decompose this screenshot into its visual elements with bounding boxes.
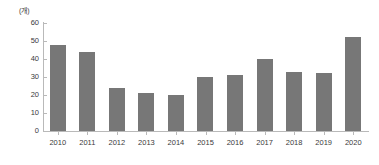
bar-2020[interactable] bbox=[345, 37, 361, 131]
plot-area bbox=[43, 23, 368, 131]
bar-slot bbox=[132, 23, 162, 131]
x-axis-tick bbox=[265, 131, 266, 135]
bar-slot bbox=[43, 23, 73, 131]
bar-slot bbox=[220, 23, 250, 131]
x-axis-tick bbox=[206, 131, 207, 135]
bar-slot bbox=[102, 23, 132, 131]
bar-2016[interactable] bbox=[227, 75, 243, 131]
bar-slot bbox=[309, 23, 339, 131]
bar-2018[interactable] bbox=[286, 72, 302, 131]
bar-2010[interactable] bbox=[50, 45, 66, 131]
x-axis-tick bbox=[294, 131, 295, 135]
x-axis-tick bbox=[324, 131, 325, 135]
x-axis-tick bbox=[87, 131, 88, 135]
x-axis-tick bbox=[58, 131, 59, 135]
x-axis-label-2020: 2020 bbox=[333, 139, 373, 147]
y-axis-tick-label: 0 bbox=[5, 127, 39, 135]
x-axis-tick bbox=[146, 131, 147, 135]
x-axis-tick bbox=[353, 131, 354, 135]
bar-slot bbox=[338, 23, 368, 131]
y-axis-tick bbox=[43, 131, 47, 132]
bar-2019[interactable] bbox=[316, 73, 332, 131]
y-axis-tick-label: 50 bbox=[5, 37, 39, 45]
y-axis-tick-label: 30 bbox=[5, 73, 39, 81]
x-axis-tick bbox=[235, 131, 236, 135]
bar-slot bbox=[191, 23, 221, 131]
bar-2014[interactable] bbox=[168, 95, 184, 131]
y-axis-tick-label: 40 bbox=[5, 55, 39, 63]
bar-slot bbox=[73, 23, 103, 131]
x-axis-tick bbox=[117, 131, 118, 135]
x-axis-tick bbox=[176, 131, 177, 135]
bar-chart-figure: (개) 6050403020100 2010201120122013201420… bbox=[0, 0, 379, 165]
bar-2011[interactable] bbox=[79, 52, 95, 131]
y-axis-tick-label: 20 bbox=[5, 91, 39, 99]
bar-slot bbox=[250, 23, 280, 131]
bar-2013[interactable] bbox=[138, 93, 154, 131]
bar-slot bbox=[279, 23, 309, 131]
bar-slot bbox=[161, 23, 191, 131]
bar-2012[interactable] bbox=[109, 88, 125, 131]
y-axis-unit-label: (개) bbox=[19, 5, 30, 15]
bar-2017[interactable] bbox=[257, 59, 273, 131]
y-axis-tick-label: 60 bbox=[5, 19, 39, 27]
bar-2015[interactable] bbox=[197, 77, 213, 131]
y-axis-tick-label: 10 bbox=[5, 109, 39, 117]
